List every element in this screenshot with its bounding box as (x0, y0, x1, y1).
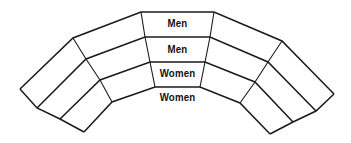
left-end-cap (20, 89, 84, 132)
row-label-4: Women (152, 91, 203, 103)
right-end-cap (270, 94, 334, 134)
row-label-2: Men (152, 43, 203, 55)
right-wing-divider (240, 41, 282, 103)
row-label-1: Men (152, 17, 203, 29)
left-wing-divider (73, 38, 112, 102)
row-label-3: Women (152, 67, 203, 79)
